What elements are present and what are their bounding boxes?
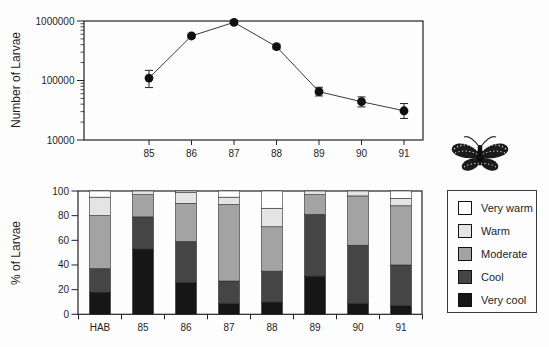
bar-segment [305,195,326,215]
bar-segment [391,198,412,205]
legend-label: Moderate [481,248,527,260]
bar-segment [348,191,369,196]
bar-segment [348,245,369,303]
bar-segment [262,191,283,208]
bar-segment [219,191,240,197]
bar-segment [176,242,197,283]
y-tick-label: 100000 [41,75,75,86]
bar-segment [176,192,197,203]
bar-segment [219,303,240,314]
bar-segment [219,197,240,204]
bar-segment [262,302,283,314]
bar-segment [133,195,154,217]
plot-frame [78,191,422,314]
legend-label: Very warm [481,202,533,214]
legend-item-very-cool: Very cool [448,288,536,311]
bar-segment [219,205,240,281]
data-point [187,32,196,41]
x-tick-label: 91 [398,148,410,159]
x-tick-label: 91 [395,322,407,333]
x-tick-label: 87 [228,148,240,159]
legend-swatch-moderate [458,247,472,261]
data-point [230,18,239,27]
legend-label: Warm [481,225,510,237]
bar-segment [262,208,283,226]
data-point [357,97,366,106]
butterfly-graphic [452,137,508,171]
x-tick-label: 90 [356,148,368,159]
bar-segment [90,269,111,292]
top-y-axis-label: Number of Larvae [9,32,23,128]
legend-item-warm: Warm [448,219,536,242]
bar-segment [262,227,283,271]
bar-segment [391,206,412,265]
y-tick-label: 20 [58,284,70,295]
bar-segment [133,249,154,314]
x-tick-label: 88 [271,148,283,159]
y-tick-label: 0 [63,309,69,320]
x-tick-label: 88 [266,322,278,333]
legend-item-moderate: Moderate [448,242,536,265]
bar-segment [176,203,197,241]
y-tick-label: 1000000 [36,16,75,27]
x-tick-label: 89 [313,148,325,159]
legend-swatch-very-cool [458,293,472,307]
bar-segment [90,197,111,215]
butterfly-icon [448,127,512,179]
y-tick-label: 40 [58,259,70,270]
legend-label: Cool [481,271,504,283]
x-tick-label: 86 [186,148,198,159]
legend-swatch-cool [458,270,472,284]
x-tick-label: 87 [223,322,235,333]
data-point [315,87,324,96]
bar-segment [305,276,326,314]
legend-swatch-very-warm [458,201,472,215]
bar-segment [176,191,197,192]
x-tick-label: 85 [143,148,155,159]
bar-segment [262,271,283,302]
bottom-y-axis-label: % of Larvae [9,221,23,285]
data-point [400,106,409,115]
legend-item-cool: Cool [448,265,536,288]
bar-segment [133,217,154,249]
bar-segment [219,281,240,303]
data-point [145,74,154,83]
x-tick-label: 89 [309,322,321,333]
bar-segment [176,282,197,314]
legend-label: Very cool [481,294,526,306]
y-tick-label: 80 [58,210,70,221]
bar-segment [391,191,412,198]
bar-segment [305,214,326,276]
figure: Number of Larvae 10000100000100000085868… [0,0,549,347]
bar-segment [391,306,412,315]
bar-segment [90,292,111,314]
bar-segment [305,191,326,195]
legend: Very warm Warm Moderate Cool Very cool [447,190,537,313]
bar-segment [90,216,111,269]
bar-segment [348,196,369,245]
x-tick-label: 85 [137,322,149,333]
y-tick-label: 100 [52,186,69,197]
bar-segment [133,191,154,195]
y-tick-label: 60 [58,235,70,246]
legend-swatch-warm [458,224,472,238]
bar-segment [90,191,111,197]
y-tick-label: 10000 [47,135,75,146]
legend-item-very-warm: Very warm [448,196,536,219]
bar-segment [348,303,369,314]
plot-frame [84,21,423,140]
bar-segment [391,265,412,306]
data-point [272,42,281,51]
x-tick-label: 86 [180,322,192,333]
x-tick-label: 90 [352,322,364,333]
x-tick-label: HAB [90,322,111,333]
